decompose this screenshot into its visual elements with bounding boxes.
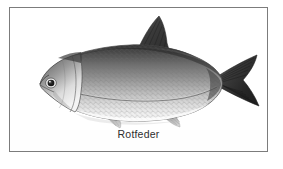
illustration-area xyxy=(10,8,267,130)
fish-illustration xyxy=(10,8,267,130)
plate-frame: Rotfeder xyxy=(9,7,268,152)
eye xyxy=(46,78,57,88)
figure-caption: Rotfeder xyxy=(10,127,267,141)
figure-plate: Rotfeder xyxy=(0,0,283,169)
